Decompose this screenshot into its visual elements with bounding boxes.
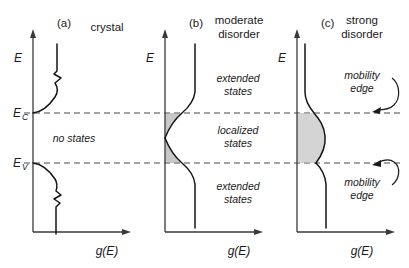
panel-a-title: crystal [90, 21, 123, 33]
panel-b-y-axis-arrowhead [162, 29, 168, 38]
ev-label-base: E [13, 156, 22, 170]
mobility-edge-annotation-upper: mobility edge [344, 69, 398, 114]
panel-c-y-axis-label: E [278, 51, 287, 65]
panel-c-x-axis-arrowhead [386, 229, 395, 235]
panel-b-title-line1: moderate [215, 14, 264, 26]
panel-b-x-axis-arrowhead [254, 229, 263, 235]
panel-b-lower-tail-shading [165, 138, 182, 163]
panel-b-title-line2: disorder [218, 28, 260, 40]
panel-a-conduction-band-curve [33, 44, 61, 113]
panel-c-title-line1: strong [346, 14, 378, 26]
ec-label-subscript: C [22, 112, 29, 122]
mobility-edge-lower-arrowhead [372, 160, 381, 167]
panel-b-tag: (b) [189, 17, 203, 29]
panel-b-upper-tail-shading [165, 113, 182, 138]
mobility-edge-lower-line2: edge [350, 189, 374, 201]
panel-a: (a) crystal E g(E) E C E V no states [13, 17, 131, 258]
panel-b-extended-lower-line1: extended [216, 180, 260, 192]
mobility-edge-upper-line1: mobility [344, 69, 380, 81]
panel-c-y-axis-arrowhead [294, 29, 300, 38]
panel-a-x-axis-label: g(E) [96, 244, 119, 258]
panel-b-y-axis-label: E [146, 51, 155, 65]
ec-level-label: E C [13, 106, 29, 122]
panel-b-extended-lower-line2: states [224, 193, 253, 205]
mobility-edge-lower-line1: mobility [344, 176, 380, 188]
panel-a-valence-band-curve [33, 163, 61, 234]
ev-level-label: E V [13, 156, 29, 172]
ec-label-base: E [13, 106, 22, 120]
panel-c: (c) strong disorder E g(E) mobility edge… [278, 14, 399, 258]
panel-c-title-line2: disorder [341, 28, 383, 40]
panel-a-gap-label: no states [53, 132, 96, 144]
panel-b: (b) moderate disorder E g(E) extended st… [146, 14, 263, 258]
panel-a-tag: (a) [57, 17, 71, 29]
dos-figure: (a) crystal E g(E) E C E V no states [0, 0, 409, 268]
mobility-edge-upper-line2: edge [350, 82, 374, 94]
panel-a-y-axis-arrowhead [30, 29, 36, 38]
panel-b-x-axis-label: g(E) [228, 244, 251, 258]
dos-figure-canvas: (a) crystal E g(E) E C E V no states [0, 0, 409, 268]
panel-b-extended-upper-line1: extended [216, 72, 260, 84]
panel-c-valence-band-curve [316, 163, 326, 228]
panel-c-x-axis-label: g(E) [351, 244, 374, 258]
panel-a-x-axis-arrowhead [122, 229, 131, 235]
mobility-edge-annotation-lower: mobility edge [344, 160, 398, 201]
panel-c-tag: (c) [321, 17, 335, 29]
mobility-edge-upper-arrow-curve [377, 78, 399, 110]
panel-a-y-axis-label: E [14, 51, 23, 65]
mobility-edge-upper-arrowhead [372, 107, 381, 114]
panel-b-localized-line2: states [224, 137, 253, 149]
panel-b-localized-line1: localized [218, 124, 260, 136]
panel-b-extended-upper-line2: states [224, 85, 253, 97]
